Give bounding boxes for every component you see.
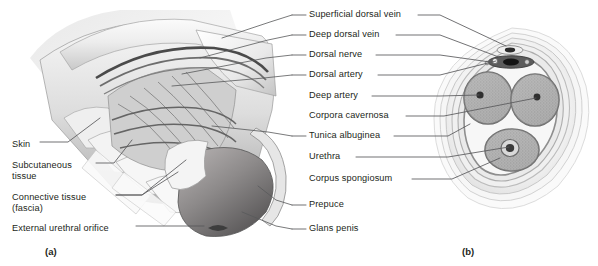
cross-section-illustration [434, 28, 589, 209]
deep-dorsal-vein-lumen [503, 59, 519, 66]
label-subcutaneous-tissue: Subcutaneous [12, 160, 72, 171]
label-corpus-spongiosum: Corpus spongiosum [309, 173, 392, 184]
label-subcutaneous-tissue-line2: tissue [12, 171, 37, 182]
urethra-lumen [506, 144, 514, 152]
anatomy-figure: Superficial dorsal vein Deep dorsal vein… [0, 0, 598, 266]
label-deep-dorsal-vein: Deep dorsal vein [309, 29, 379, 40]
label-superficial-dorsal-vein: Superficial dorsal vein [309, 9, 401, 20]
label-tunica-albuginea: Tunica albuginea [309, 130, 380, 141]
label-dorsal-artery: Dorsal artery [309, 69, 363, 80]
panel-id-b: (b) [462, 246, 474, 257]
label-connective-tissue-line2: (fascia) [12, 203, 43, 214]
label-connective-tissue: Connective tissue [12, 192, 86, 203]
label-skin: Skin [12, 139, 30, 150]
dorsal-nerve-right-lumen [525, 60, 530, 65]
label-prepuce: Prepuce [309, 199, 344, 210]
panel-id-a: (a) [45, 246, 57, 257]
corpus-cavernosum-right-shade [511, 74, 559, 126]
label-urethra: Urethra [309, 151, 340, 162]
label-dorsal-nerve: Dorsal nerve [309, 49, 362, 60]
label-corpora-cavernosa: Corpora cavernosa [309, 110, 389, 121]
corpus-cavernosum-left-shade [464, 72, 512, 124]
label-external-urethral-orifice: External urethral orifice [12, 223, 109, 234]
label-glans-penis: Glans penis [309, 223, 359, 234]
deep-artery-right [534, 94, 541, 101]
superficial-dorsal-vein-lumen [505, 48, 515, 53]
label-deep-artery: Deep artery [309, 90, 358, 101]
